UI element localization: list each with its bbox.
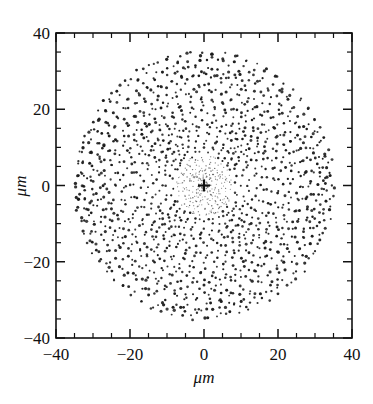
x-tick-label-minus-40: −40 bbox=[43, 345, 70, 364]
y-tick-label-0: 0 bbox=[42, 177, 51, 196]
origin-cross-marker bbox=[198, 180, 210, 192]
x-tick-label-0: 0 bbox=[200, 345, 209, 364]
x-axis-title: μm bbox=[193, 368, 215, 387]
x-tick-label-20: 20 bbox=[270, 345, 287, 364]
y-axis-title: μm bbox=[11, 176, 30, 198]
x-tick-label-40: 40 bbox=[344, 345, 361, 364]
x-tick-label-minus-20: −20 bbox=[117, 345, 144, 364]
y-tick-label-minus-20: −20 bbox=[23, 253, 50, 272]
spot-diagram-figure: 40 20 0 −20 −40 −40 −20 0 20 40 μm μm bbox=[0, 0, 373, 404]
scatter-plot-canvas: 40 20 0 −20 −40 −40 −20 0 20 40 μm μm bbox=[0, 0, 373, 404]
y-tick-label-40: 40 bbox=[33, 24, 50, 43]
y-tick-label-20: 20 bbox=[33, 100, 50, 119]
